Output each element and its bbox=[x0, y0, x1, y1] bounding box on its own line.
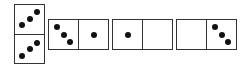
domino-4-horizontal bbox=[176, 19, 237, 50]
pip bbox=[225, 39, 231, 45]
domino-3-left-half bbox=[113, 20, 142, 49]
domino-2-left-half bbox=[49, 20, 78, 49]
pip bbox=[34, 9, 40, 15]
pip bbox=[125, 32, 131, 38]
pip bbox=[212, 24, 218, 30]
domino-1-top-half bbox=[15, 5, 44, 34]
pip bbox=[91, 32, 97, 38]
pip bbox=[219, 32, 225, 38]
domino-2-right-half bbox=[78, 20, 108, 49]
domino-3-horizontal bbox=[112, 19, 173, 50]
pip bbox=[61, 32, 67, 38]
pip bbox=[67, 39, 73, 45]
domino-3-right-half bbox=[142, 20, 172, 49]
pip bbox=[34, 40, 40, 46]
domino-1-vertical bbox=[14, 4, 45, 64]
pip bbox=[27, 16, 33, 22]
domino-4-left-half bbox=[177, 20, 206, 49]
domino-4-right-half bbox=[206, 20, 236, 49]
pip bbox=[19, 22, 25, 28]
pip bbox=[54, 24, 60, 30]
pip bbox=[19, 53, 25, 59]
domino-1-bottom-half bbox=[15, 34, 44, 64]
domino-2-horizontal bbox=[48, 19, 109, 50]
pip bbox=[27, 46, 33, 52]
